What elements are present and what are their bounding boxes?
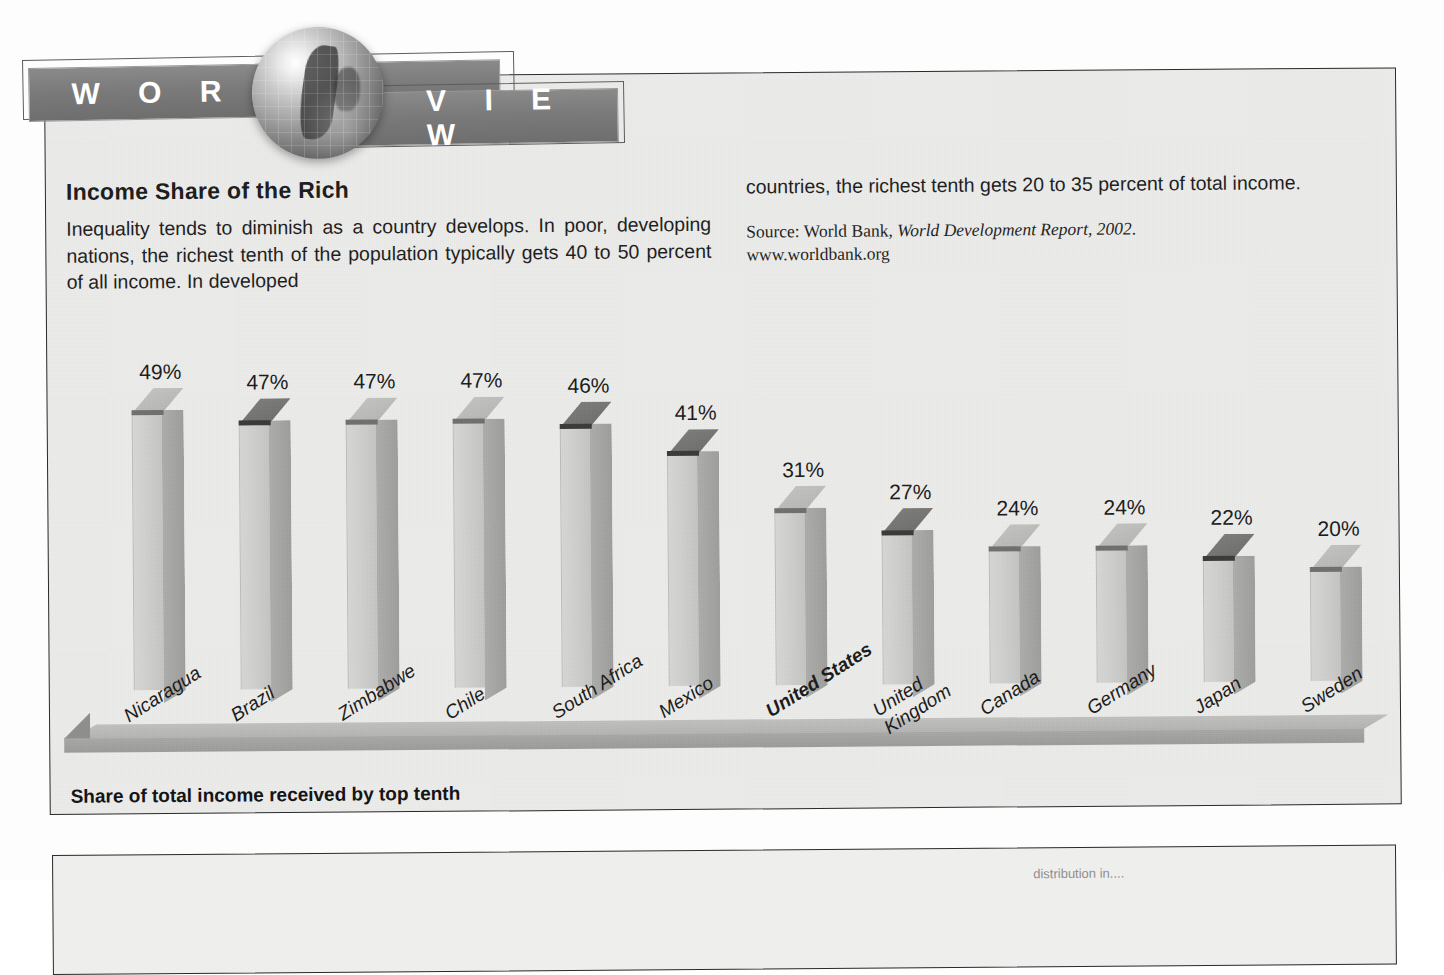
page-title: Income Share of the Rich xyxy=(66,177,349,206)
bar-front-face xyxy=(1203,556,1235,682)
source-title: World Development Report, 2002 xyxy=(897,218,1132,240)
bar-germany: 24% xyxy=(1096,545,1149,683)
bar-front-face xyxy=(346,420,379,689)
bar-value-label: 49% xyxy=(125,360,195,385)
bar-nicaragua: 49% xyxy=(132,410,186,691)
bar-top-lip xyxy=(1310,566,1342,571)
bar-front-face xyxy=(882,530,914,685)
bar-side-face xyxy=(162,410,186,703)
next-article-ghost-text: distribution in.... xyxy=(1033,864,1363,882)
bar-top-lip xyxy=(1096,545,1128,550)
lead-paragraph: Inequality tends to diminish as a countr… xyxy=(66,211,712,296)
bar-value-label: 24% xyxy=(982,496,1052,521)
bar-side-face xyxy=(590,423,614,699)
right-column: countries, the richest tenth gets 20 to … xyxy=(746,168,1397,266)
bar-top-lip xyxy=(989,546,1021,551)
bar-front-face xyxy=(132,410,165,691)
chart-floor-wedge xyxy=(64,713,90,739)
bar-zimbabwe: 47% xyxy=(346,419,400,688)
bar-value-label: 22% xyxy=(1196,506,1266,531)
bar-south-africa: 46% xyxy=(560,423,614,687)
bar-canada: 24% xyxy=(989,546,1042,684)
source-url: www.worldbank.org xyxy=(746,238,1396,266)
source-suffix: . xyxy=(1132,218,1137,238)
source-prefix: Source: World Bank, xyxy=(746,220,897,241)
bar-value-label: 47% xyxy=(446,368,516,393)
bar-top-lip xyxy=(453,419,485,424)
bar-value-label: 24% xyxy=(1089,495,1159,520)
bar-brazil: 47% xyxy=(239,420,293,689)
bar-front-face xyxy=(560,424,593,687)
bar-series: 49%47%47%47%46%41%31%27%24%24%22%20% xyxy=(61,331,1381,341)
bar-value-label: 47% xyxy=(339,369,409,394)
bar-top-lip xyxy=(1203,556,1235,561)
income-share-bar-chart: 49%47%47%47%46%41%31%27%24%24%22%20% Nic… xyxy=(61,331,1384,761)
bar-value-label: 31% xyxy=(768,457,838,482)
bar-value-label: 47% xyxy=(232,370,302,395)
bar-top-lip xyxy=(239,420,271,425)
bar-front-face xyxy=(1096,545,1128,683)
bar-value-label: 27% xyxy=(875,479,945,504)
bar-value-label: 46% xyxy=(553,373,623,398)
continuation-paragraph: countries, the richest tenth gets 20 to … xyxy=(746,168,1396,200)
bar-side-face xyxy=(697,451,721,699)
bar-side-face xyxy=(483,419,507,701)
bar-front-face xyxy=(989,546,1021,684)
bar-front-face xyxy=(239,420,272,689)
source-citation: Source: World Bank, World Development Re… xyxy=(746,215,1396,266)
bar-front-face xyxy=(1310,566,1342,681)
bar-top-lip xyxy=(132,410,164,415)
bar-united-states: 31% xyxy=(774,508,827,686)
bar-front-face xyxy=(667,451,700,686)
world-view-panel: Income Share of the Rich Inequality tend… xyxy=(44,67,1402,815)
bar-front-face xyxy=(453,419,486,688)
bar-japan: 22% xyxy=(1203,556,1256,682)
bar-chile: 47% xyxy=(453,419,507,688)
bar-top-lip xyxy=(667,451,699,456)
bar-side-face xyxy=(376,419,400,701)
globe-shading xyxy=(252,27,384,159)
bar-mexico: 41% xyxy=(667,451,721,686)
axis-caption: Share of total income received by top te… xyxy=(71,783,461,808)
bar-value-label: 41% xyxy=(661,401,731,426)
globe-icon xyxy=(252,27,384,159)
category-label-chile: Chile xyxy=(441,683,489,724)
bar-side-face xyxy=(1233,556,1256,695)
bar-top-lip xyxy=(882,530,914,535)
bar-front-face xyxy=(774,508,806,686)
bar-united-kingdom: 27% xyxy=(882,530,935,685)
bar-top-lip xyxy=(560,424,592,429)
bar-side-face xyxy=(269,420,293,702)
category-axis-labels: NicaraguaBrazilZimbabweChileSouth Africa… xyxy=(61,331,1381,341)
next-article-panel: distribution in.... xyxy=(52,844,1397,975)
bar-top-lip xyxy=(346,420,378,425)
bar-value-label: 20% xyxy=(1303,516,1373,541)
bar-top-lip xyxy=(774,508,806,513)
